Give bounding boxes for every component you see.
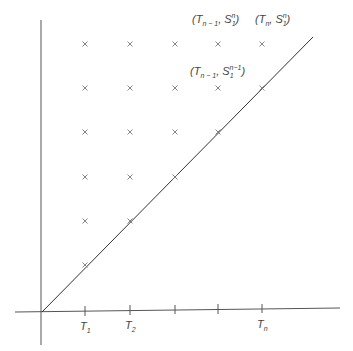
lattice-point-mark — [128, 175, 133, 180]
lattice-point-mark — [173, 130, 178, 135]
annotation-top-left: (Tn − 1, S1n) — [192, 12, 239, 27]
lattice-point-mark — [83, 263, 88, 268]
lattice-point-mark — [260, 42, 265, 47]
lattice-point-mark — [173, 86, 178, 91]
lattice-point-mark — [83, 175, 88, 180]
tick-label-t1: T1 — [80, 320, 91, 334]
lattice-point-mark — [83, 219, 88, 224]
lattice-point-mark — [83, 130, 88, 135]
lattice-point-mark — [128, 42, 133, 47]
lattice-point-mark — [83, 86, 88, 91]
lattice-point-mark — [128, 130, 133, 135]
lattice-point-mark — [173, 175, 178, 180]
lattice-point-mark — [216, 86, 221, 91]
lattice-point-mark — [83, 42, 88, 47]
lattice-point-mark — [173, 42, 178, 47]
diagram-canvas — [0, 0, 353, 351]
lattice-point-mark — [216, 42, 221, 47]
x-axis — [15, 308, 340, 312]
tick-label-tn: Tn — [257, 318, 268, 332]
annotation-mid: (Tn − 1, S1n−1) — [190, 64, 245, 79]
tick-label-t2: T2 — [125, 319, 136, 333]
lattice-point-mark — [128, 86, 133, 91]
lattice-point-mark — [260, 86, 265, 91]
annotation-top-right: (Tn, S1n) — [255, 12, 290, 27]
